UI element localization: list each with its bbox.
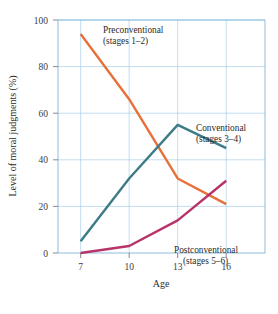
annotation-postconventional-line2: (stages 5–6) bbox=[183, 256, 228, 267]
annotation-conventional-line1: Conventional bbox=[196, 123, 247, 133]
y-tick-marks bbox=[53, 20, 58, 253]
y-tick-label-0: 0 bbox=[43, 249, 48, 259]
y-tick-label-100: 100 bbox=[34, 16, 49, 26]
y-tick-label-80: 80 bbox=[39, 62, 49, 72]
x-tick-label-13: 13 bbox=[173, 262, 183, 272]
y-tick-label-20: 20 bbox=[39, 202, 49, 212]
y-tick-label-60: 60 bbox=[39, 109, 49, 119]
moral-judgment-line-chart: 100 80 60 40 20 0 7 10 13 16 Age Level o… bbox=[0, 0, 278, 314]
annotation-postconventional-line1: Postconventional bbox=[174, 245, 238, 255]
x-tick-label-7: 7 bbox=[78, 262, 83, 272]
annotation-conventional-line2: (stages 3–4) bbox=[196, 134, 241, 145]
annotation-preconventional-line2: (stages 1–2) bbox=[103, 36, 148, 47]
y-axis-title: Level of moral judgments (%) bbox=[7, 75, 19, 196]
y-tick-label-40: 40 bbox=[39, 155, 49, 165]
annotation-preconventional-line1: Preconventional bbox=[103, 25, 164, 35]
x-axis-title: Age bbox=[153, 278, 170, 289]
annotation-conventional: Conventional (stages 3–4) bbox=[196, 123, 247, 145]
x-tick-label-10: 10 bbox=[124, 262, 134, 272]
chart-canvas: 100 80 60 40 20 0 7 10 13 16 Age Level o… bbox=[0, 0, 278, 314]
